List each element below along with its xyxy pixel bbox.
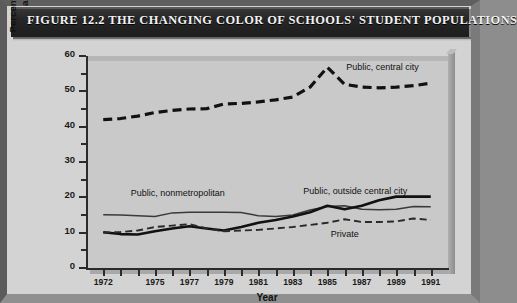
series-label-0: Public, central city: [346, 62, 419, 72]
x-tick-1988: [379, 270, 381, 276]
x-tick-1986: [345, 270, 347, 276]
y-tick-minor-25: [81, 179, 86, 181]
x-tick-label-1983: 1983: [283, 277, 302, 287]
x-tick-1979: [224, 270, 226, 276]
x-tick-1985: [327, 270, 329, 276]
y-tick-0: 0: [79, 267, 86, 269]
x-tick-label-1987: 1987: [352, 277, 371, 287]
series-line-0: [103, 67, 431, 119]
x-tick-1975: [155, 270, 157, 276]
figure-title: FIGURE 12.2 THE CHANGING COLOR OF SCHOOL…: [27, 13, 517, 28]
x-axis-title: Year: [86, 292, 448, 303]
x-tick-1991: [431, 270, 433, 276]
y-tick-20: 20: [79, 196, 86, 198]
title-bar-highlight: [11, 7, 469, 9]
y-axis-title-line-2: and Latino Students: [19, 0, 31, 60]
y-tick-minor-45: [81, 108, 86, 110]
chart-area: 0102030405060 19721975197719791981198319…: [11, 42, 469, 292]
x-tick-label-1972: 1972: [94, 277, 113, 287]
y-tick-label-0: 0: [70, 260, 75, 271]
x-tick-label-1979: 1979: [214, 277, 233, 287]
y-tick-label-60: 60: [64, 48, 75, 59]
plot-right-wall: [448, 52, 455, 274]
y-tick-label-50: 50: [64, 83, 75, 94]
x-tick-1978: [207, 270, 209, 276]
x-tick-1983: [293, 270, 295, 276]
x-tick-1980: [241, 270, 243, 276]
y-tick-60: 60: [79, 55, 86, 57]
series-label-1: Public, nonmetropolitan: [131, 188, 225, 198]
y-tick-minor-55: [81, 73, 86, 75]
series-label-2: Public, outside central city: [303, 186, 407, 196]
y-tick-10: 10: [79, 232, 86, 234]
y-tick-label-40: 40: [64, 119, 75, 130]
x-tick-1972: [103, 270, 105, 276]
y-tick-label-20: 20: [64, 189, 75, 200]
x-tick-label-1985: 1985: [318, 277, 337, 287]
y-tick-minor-15: [81, 214, 86, 216]
plot-right-wall-top: [446, 49, 457, 54]
figure-title-bar: FIGURE 12.2 THE CHANGING COLOR OF SCHOOL…: [11, 7, 469, 37]
plot-surface: [86, 56, 448, 268]
x-tick-label-1989: 1989: [387, 277, 406, 287]
x-tick-1982: [276, 270, 278, 276]
y-tick-label-10: 10: [64, 225, 75, 236]
x-tick-1984: [310, 270, 312, 276]
x-tick-group: 1972197519771979198119831985198719891991: [86, 268, 448, 288]
x-tick-label-1977: 1977: [180, 277, 199, 287]
x-tick-1974: [138, 270, 140, 276]
y-axis-title: Percentage of African American and Latin…: [7, 0, 31, 60]
x-tick-1981: [258, 270, 260, 276]
y-tick-group: 0102030405060: [86, 56, 88, 269]
y-tick-40: 40: [79, 126, 86, 128]
x-tick-label-1975: 1975: [145, 277, 164, 287]
x-tick-label-1981: 1981: [249, 277, 268, 287]
title-bar-shadow: [13, 37, 471, 41]
chart-lines-svg: [86, 56, 448, 268]
y-tick-label-30: 30: [64, 154, 75, 165]
x-tick-1987: [362, 270, 364, 276]
y-tick-30: 30: [79, 161, 86, 163]
x-tick-label-1991: 1991: [421, 277, 440, 287]
y-tick-minor-5: [81, 249, 86, 251]
x-tick-1976: [172, 270, 174, 276]
x-tick-1989: [396, 270, 398, 276]
y-tick-minor-35: [81, 143, 86, 145]
x-tick-1977: [189, 270, 191, 276]
y-tick-50: 50: [79, 90, 86, 92]
y-axis-title-line-1: Percentage of African American: [7, 0, 19, 60]
series-line-1: [103, 206, 431, 217]
x-tick-1990: [414, 270, 416, 276]
series-label-3: Private: [331, 229, 359, 239]
x-tick-1973: [120, 270, 122, 276]
